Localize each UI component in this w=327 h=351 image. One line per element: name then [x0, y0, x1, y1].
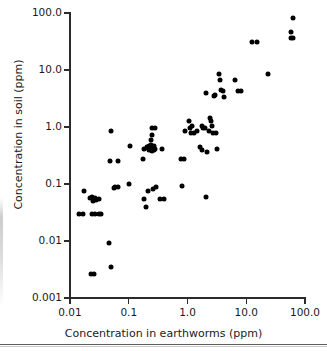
x-tick-label-100.0: 100.0	[290, 306, 320, 318]
data-point	[142, 196, 147, 201]
data-point	[161, 196, 166, 201]
data-point	[204, 91, 209, 96]
data-point	[199, 147, 204, 152]
data-point	[91, 272, 96, 277]
data-point	[98, 211, 103, 216]
data-point	[107, 159, 112, 164]
y-axis-title: Concentration in soil (ppm)	[12, 55, 25, 215]
data-point	[143, 204, 148, 209]
y-tick-100.0	[64, 12, 70, 13]
page-divider-rule-secondary	[0, 346, 327, 347]
data-point	[126, 181, 131, 186]
data-point	[182, 157, 187, 162]
data-point	[221, 95, 226, 100]
data-point	[179, 184, 184, 189]
data-point	[127, 144, 132, 149]
data-point	[217, 78, 222, 83]
x-tick-label-10.0: 10.0	[235, 306, 258, 318]
x-tick-0.1	[128, 298, 129, 304]
data-point	[289, 30, 294, 35]
data-point	[142, 147, 147, 152]
data-point	[109, 129, 114, 134]
scatter-plot-figure: 0.0010.010.11.010.0100.0 0.010.11.010.01…	[0, 0, 327, 351]
data-point	[291, 36, 296, 41]
data-point	[216, 72, 221, 77]
data-point	[115, 184, 120, 189]
data-point	[80, 211, 85, 216]
scan-edge-artifact	[0, 198, 3, 306]
x-tick-1.0	[187, 298, 188, 304]
data-point	[192, 131, 197, 136]
data-point	[82, 189, 87, 194]
data-point	[108, 264, 113, 269]
data-point	[107, 241, 112, 246]
x-tick-label-1.0: 1.0	[179, 306, 196, 318]
data-point	[148, 143, 153, 148]
data-point	[205, 149, 210, 154]
x-tick-label-0.1: 0.1	[120, 306, 137, 318]
data-point	[190, 123, 195, 128]
x-tick-0.01	[69, 298, 70, 304]
data-point	[111, 186, 116, 191]
data-point	[152, 125, 157, 130]
data-point	[148, 137, 153, 142]
data-point	[160, 147, 165, 152]
y-tick-label-0.001: 0.001	[2, 291, 62, 303]
data-point	[186, 118, 191, 123]
data-point	[290, 15, 295, 20]
x-tick-10.0	[246, 298, 247, 304]
data-point	[254, 39, 259, 44]
data-point	[213, 93, 218, 98]
data-point	[213, 131, 218, 136]
x-axis-title: Concentration in earthworms (ppm)	[0, 327, 327, 340]
data-point	[141, 157, 146, 162]
data-point	[203, 195, 208, 200]
y-tick-label-100.0: 100.0	[2, 6, 62, 18]
x-tick-label-0.01: 0.01	[58, 306, 81, 318]
y-tick-label-0.01: 0.01	[2, 234, 62, 246]
data-point	[87, 196, 92, 201]
x-tick-100.0	[304, 298, 305, 304]
y-tick-0.1	[64, 183, 70, 184]
data-point	[239, 88, 244, 93]
data-point	[149, 133, 154, 138]
page-divider-rule	[0, 344, 327, 345]
data-point	[116, 159, 121, 164]
data-point	[206, 129, 211, 134]
plot-area	[70, 13, 305, 298]
data-point	[209, 123, 214, 128]
y-tick-0.01	[64, 240, 70, 241]
data-point	[93, 198, 98, 203]
data-point	[220, 88, 225, 93]
y-tick-10.0	[64, 69, 70, 70]
y-tick-1.0	[64, 126, 70, 127]
data-point	[265, 72, 270, 77]
data-point	[154, 184, 159, 189]
data-point	[233, 78, 238, 83]
data-point	[215, 147, 220, 152]
